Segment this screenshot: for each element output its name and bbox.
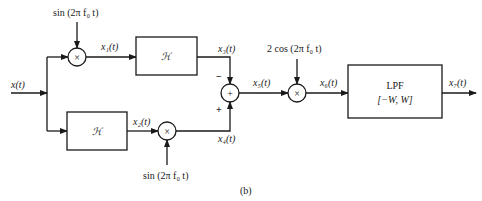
lpf-band: [−W, W] xyxy=(377,94,412,105)
summer-minus-sign: − xyxy=(216,71,222,82)
cos-carrier-label: 2 cos (2π f₀ t) xyxy=(267,43,322,55)
input-signal: x(t) xyxy=(10,79,47,93)
summer-plus-sign: + xyxy=(216,104,222,115)
figure-caption: (b) xyxy=(240,185,252,197)
cos-multiplier: × xyxy=(288,84,306,102)
bottom-multiplier: × xyxy=(158,122,176,140)
multiply-icon: × xyxy=(294,88,300,99)
summer: + xyxy=(221,84,239,102)
multiply-icon: × xyxy=(74,52,80,63)
x4-label: x₄(t) xyxy=(217,133,236,145)
input-label: x(t) xyxy=(10,79,26,91)
x5-label: x₅(t) xyxy=(252,77,271,89)
x3-label: x₃(t) xyxy=(217,43,236,55)
top-multiplier: × xyxy=(68,48,86,66)
x3-line xyxy=(197,57,230,84)
x2-label: x₂(t) xyxy=(132,116,151,128)
plus-icon: + xyxy=(227,88,233,99)
x6-label: x₆(t) xyxy=(319,77,338,89)
x4-line xyxy=(176,102,230,131)
hilbert-block-bottom: ℋ xyxy=(67,112,127,150)
x1-label: x₁(t) xyxy=(100,41,119,53)
hilbert-block-top: ℋ xyxy=(136,37,197,75)
block-diagram: x(t) × sin (2π f₀ t) x₁(t) ℋ x₃(t) − + +… xyxy=(0,0,482,201)
lpf-title: LPF xyxy=(386,80,404,91)
x7-label: x₇(t) xyxy=(448,77,467,89)
lpf-block: LPF [−W, W] xyxy=(348,65,442,118)
top-carrier-label: sin (2π f₀ t) xyxy=(53,7,98,19)
multiply-icon: × xyxy=(164,126,170,137)
bottom-carrier-label: sin (2π f₀ t) xyxy=(143,170,188,182)
